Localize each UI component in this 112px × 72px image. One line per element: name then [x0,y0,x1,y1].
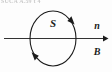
field-arrow-head-icon [103,36,109,42]
normal-vector-label: n [94,20,100,31]
field-vector-label: B [93,46,101,57]
vector-arrow-group [4,36,109,42]
physics-figure: SUCA A.59 t 4 S n B [0,0,112,72]
surface-label: S [50,17,56,29]
figure-canvas: S n B [0,0,112,72]
